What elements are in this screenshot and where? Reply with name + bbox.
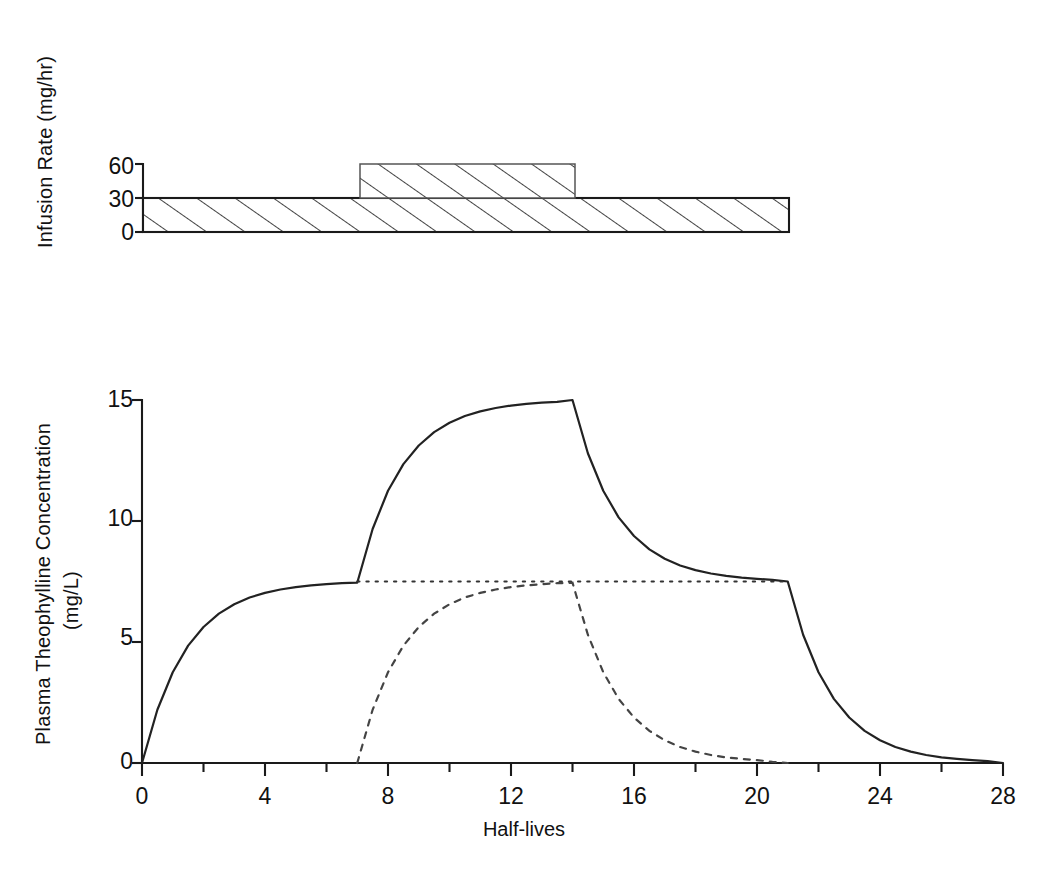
bottom-xtick-16: 16: [604, 783, 664, 810]
bottom-x-ticks: [142, 763, 1003, 776]
infusion-rate-plot: [120, 145, 1020, 265]
concentration-axis-label-line2: (mg/L): [60, 571, 83, 630]
plasma-concentration-plot: [118, 385, 1038, 805]
infusion-rate-axis-label: Infusion Rate (mg/hr): [34, 56, 57, 248]
bottom-y-ticks: [132, 400, 142, 763]
bottom-xtick-28: 28: [973, 783, 1033, 810]
bottom-xtick-4: 4: [235, 783, 295, 810]
incremental-concentration-curve: [357, 583, 788, 763]
bottom-xtick-0: 0: [112, 783, 172, 810]
pharmacokinetic-figure: Infusion Rate (mg/hr) 60 30 0 Plasma The…: [0, 0, 1048, 872]
bottom-xtick-24: 24: [850, 783, 910, 810]
half-lives-axis-label: Half-lives: [0, 818, 1048, 841]
bottom-xtick-8: 8: [358, 783, 418, 810]
bottom-xtick-12: 12: [481, 783, 541, 810]
maintenance-infusion-bar: [143, 198, 789, 232]
total-concentration-curve: [142, 400, 1003, 763]
concentration-axis-label-line1: Plasma Theophylline Concentration: [32, 423, 55, 745]
bottom-xtick-20: 20: [727, 783, 787, 810]
increased-infusion-bar: [360, 164, 575, 198]
